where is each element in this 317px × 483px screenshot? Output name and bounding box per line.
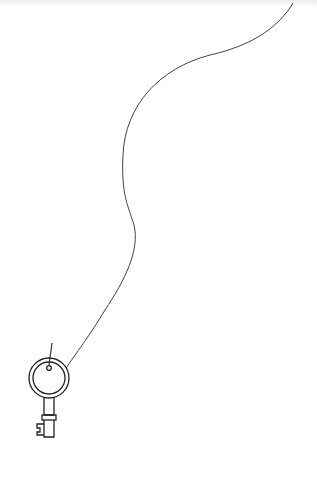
key-icon — [29, 358, 69, 437]
key-illustration — [0, 0, 317, 483]
hanging-string — [66, 3, 293, 368]
